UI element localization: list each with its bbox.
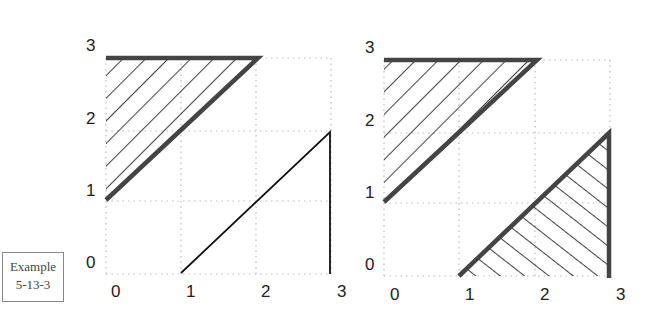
svg-text:3: 3 (365, 38, 374, 57)
right-panel: 3 2 1 0 0 1 2 3 (365, 38, 625, 304)
left-panel: 3 2 1 0 0 1 2 3 (86, 36, 346, 301)
svg-text:0: 0 (365, 255, 374, 274)
svg-text:2: 2 (365, 111, 374, 130)
thin-boundary (181, 132, 330, 274)
svg-text:0: 0 (390, 285, 399, 304)
svg-text:3: 3 (616, 285, 625, 304)
svg-text:0: 0 (86, 253, 95, 272)
svg-text:3: 3 (86, 36, 95, 55)
svg-text:1: 1 (465, 285, 474, 304)
diagram: 3 2 1 0 0 1 2 3 3 2 1 (0, 0, 651, 311)
svg-text:1: 1 (365, 183, 374, 202)
svg-text:1: 1 (186, 282, 195, 301)
y-ticks: 3 2 1 0 (365, 38, 374, 274)
y-ticks: 3 2 1 0 (86, 36, 95, 272)
x-ticks: 0 1 2 3 (111, 282, 346, 301)
svg-text:1: 1 (86, 181, 95, 200)
x-ticks: 0 1 2 3 (390, 285, 625, 304)
svg-text:2: 2 (261, 282, 270, 301)
svg-text:2: 2 (540, 285, 549, 304)
svg-text:2: 2 (86, 109, 95, 128)
svg-text:0: 0 (111, 282, 120, 301)
svg-text:3: 3 (337, 282, 346, 301)
